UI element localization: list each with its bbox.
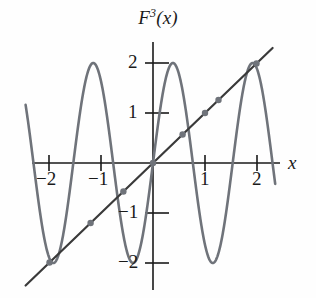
intersection-dot — [202, 110, 208, 116]
x-tick-label--1: −1 — [88, 168, 108, 190]
intersection-dot — [120, 188, 126, 194]
y-tick-label-1: 1 — [128, 101, 138, 123]
plot-canvas — [0, 0, 316, 298]
intersection-dot — [87, 220, 93, 226]
y-tick-label-2: 2 — [128, 51, 138, 73]
intersection-dot — [46, 259, 52, 265]
intersection-dot — [215, 97, 221, 103]
x-tick-label-2: 2 — [252, 168, 262, 190]
x-tick-label--2: −2 — [36, 168, 56, 190]
y-tick-label--2: −2 — [118, 251, 138, 273]
y-tick-label--1: −1 — [118, 201, 138, 223]
figure-container: F3(x) −2 −1 1 2 2 1 −1 −2 x — [0, 0, 316, 298]
x-axis-label: x — [288, 152, 296, 174]
intersection-dot — [179, 131, 185, 137]
intersection-dot — [253, 60, 259, 66]
x-tick-label-1: 1 — [200, 168, 210, 190]
identity-line — [26, 48, 273, 286]
intersection-dot — [150, 160, 156, 166]
